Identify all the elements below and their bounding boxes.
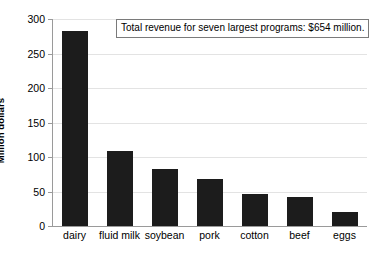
y-tick-label: 50 [8,186,52,198]
bar-slot [277,19,322,226]
y-tick-mark [48,226,52,227]
x-tick-label: eggs [333,229,356,241]
bar-slot [187,19,232,226]
x-tick-label: pork [199,229,219,241]
total-revenue-note: Total revenue for seven largest programs… [116,19,369,38]
y-tick-label: 150 [8,117,52,129]
bar-chart: Million dollars 050100150200250300 dairy… [0,0,389,261]
y-tick-mark [48,123,52,124]
bar[interactable] [152,169,178,226]
bar-slot [97,19,142,226]
x-axis-tick-labels: dairyfluid milksoybeanporkcottonbeefeggs [52,229,367,249]
y-tick-mark [48,54,52,55]
y-tick-label: 0 [8,220,52,232]
x-tick-label: beef [289,229,309,241]
bar[interactable] [107,151,133,226]
y-tick-label: 200 [8,82,52,94]
x-tick-label: dairy [63,229,86,241]
y-tick-label: 250 [8,48,52,60]
y-tick-mark [48,88,52,89]
y-tick-mark [48,19,52,20]
bar[interactable] [287,197,313,226]
axis-baseline [52,226,367,227]
bar[interactable] [62,31,88,226]
x-tick-label: cotton [240,229,269,241]
bars-layer [52,19,367,226]
bar[interactable] [332,212,358,226]
bar-slot [232,19,277,226]
bar-slot [142,19,187,226]
y-tick-label: 100 [8,151,52,163]
bar-slot [322,19,367,226]
bar[interactable] [242,194,268,226]
x-tick-label: soybean [145,229,185,241]
bar-slot [52,19,97,226]
x-tick-label: fluid milk [99,229,140,241]
y-tick-label: 300 [8,13,52,25]
y-tick-mark [48,192,52,193]
y-axis-tick-labels: 050100150200250300 [0,19,52,226]
bar[interactable] [197,179,223,226]
y-tick-mark [48,157,52,158]
